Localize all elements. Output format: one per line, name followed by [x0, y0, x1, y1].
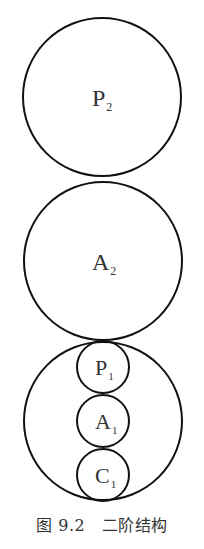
label-a1: A1 — [95, 409, 117, 436]
label-a2: A2 — [92, 249, 116, 278]
label-p1: P1 — [95, 355, 114, 382]
figure-caption: 图 9.2 二阶结构 — [0, 512, 204, 536]
second-order-structure-diagram: P2 A2 P1 A1 C1 — [0, 0, 204, 549]
label-c1: C1 — [95, 463, 116, 490]
label-p2: P2 — [92, 85, 112, 114]
